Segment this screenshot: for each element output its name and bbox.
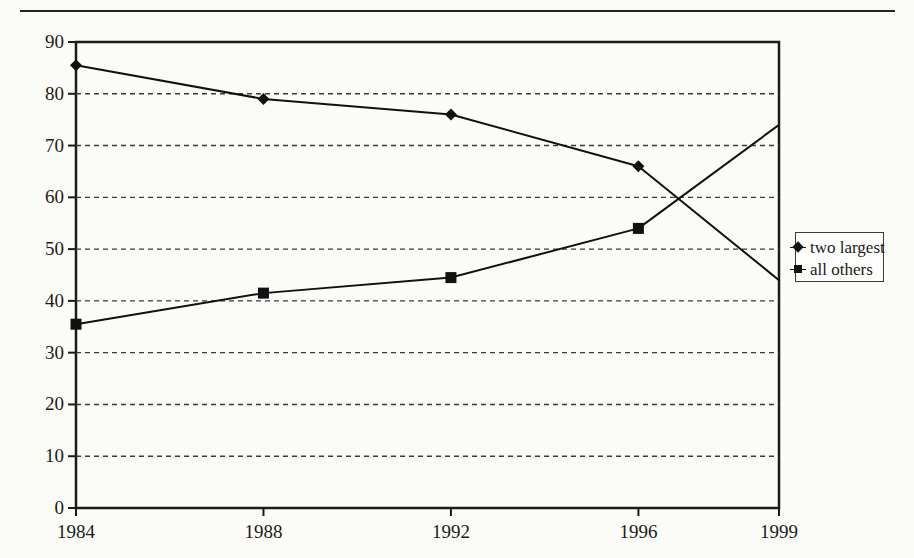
data-point-diamond-1988	[257, 93, 269, 105]
legend-entry-all-others: all others	[790, 260, 873, 278]
data-point-diamond-1984	[70, 59, 82, 71]
horizontal-gridlines	[76, 94, 779, 456]
data-point-square-1988	[258, 288, 269, 299]
chart-legend: two largest all others	[795, 232, 884, 282]
diamond-marker-icon	[790, 239, 806, 255]
y-axis-label-80: 80	[16, 84, 64, 103]
data-point-square-1984	[71, 319, 82, 330]
line-chart-figure: 9080706050403020100 19841988199219961999…	[0, 0, 914, 558]
legend-label-two-largest: two largest	[810, 239, 885, 256]
series-line-all-others	[76, 125, 779, 324]
y-axis-label-50: 50	[16, 239, 64, 258]
x-axis-label-1999: 1999	[739, 522, 819, 541]
data-series-markers	[70, 59, 644, 329]
x-axis-label-1996: 1996	[598, 522, 678, 541]
data-point-square-1992	[445, 272, 456, 283]
legend-entry-two-largest: two largest	[790, 238, 885, 256]
y-axis-label-10: 10	[16, 446, 64, 465]
y-axis-label-0: 0	[16, 498, 64, 517]
y-axis-label-60: 60	[16, 187, 64, 206]
chart-page: 9080706050403020100 19841988199219961999…	[0, 0, 914, 558]
square-marker-icon	[790, 261, 806, 277]
y-axis-label-70: 70	[16, 136, 64, 155]
y-axis-label-40: 40	[16, 291, 64, 310]
x-axis-label-1992: 1992	[411, 522, 491, 541]
series-line-two-largest	[76, 65, 779, 280]
chart-canvas	[0, 0, 914, 558]
x-axis-label-1988: 1988	[223, 522, 303, 541]
x-axis-label-1984: 1984	[36, 522, 116, 541]
y-axis-label-20: 20	[16, 394, 64, 413]
data-series-lines	[76, 65, 779, 324]
data-point-diamond-1992	[445, 108, 457, 120]
y-axis-label-90: 90	[16, 32, 64, 51]
legend-label-all-others: all others	[810, 261, 873, 278]
y-axis-label-30: 30	[16, 343, 64, 362]
data-point-square-1996	[633, 223, 644, 234]
